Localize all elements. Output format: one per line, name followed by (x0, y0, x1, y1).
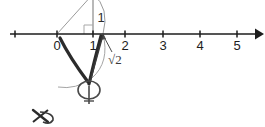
right-angle-marker (84, 25, 93, 34)
sqrt2-callout-group: √2 (101, 33, 122, 67)
axis-group: 0 1 2 3 4 5 (10, 29, 264, 54)
math-figure: 1 0 1 2 3 4 5 (0, 0, 265, 127)
tick-label-2: 2 (121, 38, 128, 53)
v-mark-left-stroke (60, 38, 88, 82)
axis-arrowhead-icon (255, 29, 264, 40)
tick-label-4: 4 (196, 38, 203, 53)
figure-canvas: 1 0 1 2 3 4 5 (0, 0, 265, 127)
hypotenuse-line (57, 0, 93, 34)
tick-label-3: 3 (159, 38, 166, 53)
tick-label-5: 5 (233, 38, 240, 53)
vertical-leg-label: 1 (97, 10, 104, 25)
sqrt2-label: √2 (108, 52, 122, 67)
